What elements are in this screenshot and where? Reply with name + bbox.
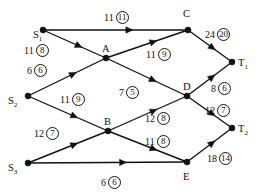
edge-capacity: 24 [205,30,215,40]
edge-capacity: 11 [60,95,70,105]
edge-capacity: 12 [34,129,44,139]
edge-flow: 14 [219,152,232,165]
node-dot-s3 [25,160,31,166]
node-label-text: D [183,81,191,92]
edge-flow: 8 [36,44,49,57]
arrow-head-s1-c [126,27,133,33]
node-label-subscript: 3 [14,168,18,176]
node-label-subscript: 1 [244,63,248,71]
node-label-text: C [183,8,190,19]
node-dot-t2 [229,125,235,131]
edge-flow: 6 [34,64,47,77]
arrow-head-d-t1 [207,75,215,82]
edge-label-s3-b: 127 [34,127,59,140]
edge-flow: 9 [158,48,171,61]
edge-label-s1-c: 1111 [104,11,129,24]
node-label-text: B [104,116,111,127]
edge-label-b-d: 128 [145,112,170,125]
node-label-s1: S1 [33,30,42,43]
edge-flow: 7 [46,127,59,140]
edge-flow: 9 [72,93,85,106]
node-label-d: D [183,82,191,93]
arrow-head-s1-a [74,42,82,48]
edge-label-d-t1: 86 [211,82,231,95]
edge-label-e-t2: 1814 [207,152,232,165]
edge-capacity: 12 [145,114,155,124]
edge-label-b-e: 118 [145,135,170,148]
edge-s1-a [43,30,106,58]
node-dot-s2 [25,93,31,99]
edge-capacity: 18 [207,154,217,164]
arrow-head-a-c [149,40,157,46]
arrow-head-e-t2 [207,141,215,148]
node-dot-a [103,55,109,61]
node-label-t2: T2 [238,124,248,137]
edge-label-a-c: 119 [146,48,171,61]
node-label-c: C [183,9,190,20]
node-dot-b [105,128,111,134]
node-label-e: E [183,172,189,183]
edge-capacity: 11 [24,46,34,56]
edge-flow: 8 [157,135,170,148]
arrow-head-c-t1 [208,43,216,50]
edge-flow: 20 [217,28,230,41]
node-dot-t1 [229,59,235,65]
edge-capacity: 11 [145,137,155,147]
edge-capacity: 11 [146,50,156,60]
arrow-head-s3-e [120,159,127,165]
node-dot-d [184,93,190,99]
arrow-head-s3-b [70,143,78,149]
edge-capacity: 11 [104,13,114,23]
node-label-t1: T1 [238,58,248,71]
edge-label-c-t1: 2420 [205,28,230,41]
network-flow-diagram: S1S2S3ABCDET1T2 111111866119127661197512… [0,0,265,195]
edge-flow: 7 [217,104,230,117]
edge-flow: 5 [126,86,139,99]
edge-s3-e [28,162,187,163]
edge-capacity: 6 [101,178,106,188]
edge-label-d-t2: 127 [205,104,230,117]
edge-label-s2-b: 119 [60,93,85,106]
node-label-subscript: 2 [244,129,248,137]
node-label-b: B [104,117,111,128]
edge-capacity: 7 [119,88,124,98]
node-dot-e [184,159,190,165]
edge-flow: 6 [218,82,231,95]
edge-flow: 8 [157,112,170,125]
node-label-s2: S2 [8,96,17,109]
node-label-a: A [102,44,110,55]
node-label-text: A [102,43,110,54]
node-label-subscript: 1 [39,35,43,43]
node-label-text: E [183,171,189,182]
edge-flow: 11 [116,11,129,24]
node-dot-c [185,27,191,33]
arrow-head-s2-a [69,72,77,78]
edge-label-a-d: 75 [119,86,139,99]
node-label-subscript: 2 [14,101,18,109]
arrow-head-s2-b [70,112,78,118]
edge-capacity: 8 [211,84,216,94]
arrow-head-a-d [149,76,157,82]
edge-capacity: 6 [27,66,32,76]
edge-flow: 6 [108,176,121,189]
edge-capacity: 12 [205,106,215,116]
edge-label-s3-e: 66 [101,176,121,189]
node-label-s3: S3 [8,163,17,176]
edge-label-s2-a: 66 [27,64,47,77]
edge-label-s1-a: 118 [24,44,49,57]
